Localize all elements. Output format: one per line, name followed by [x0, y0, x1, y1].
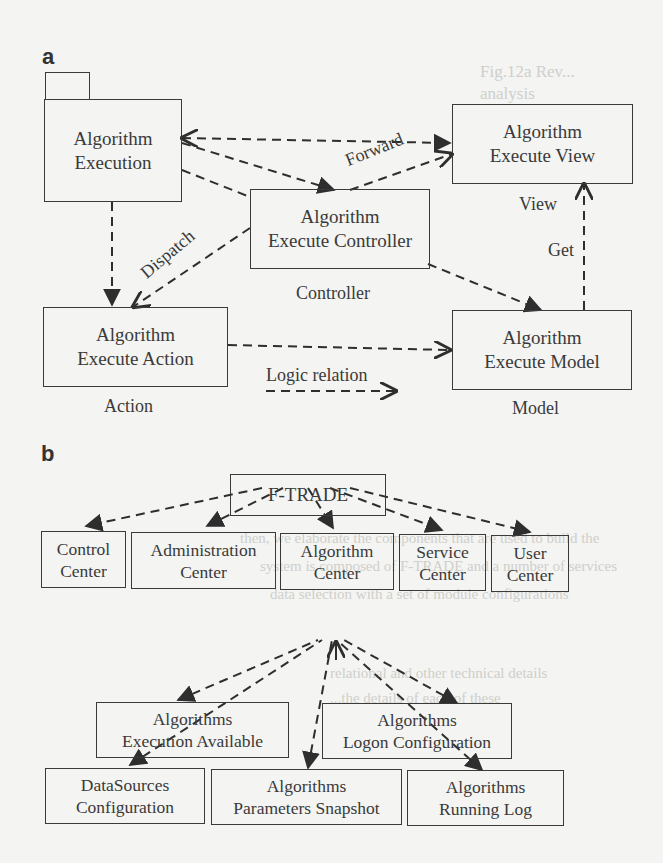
node-algorithm-execute-action: Algorithm Execute Action [43, 307, 228, 387]
node-line1: User [513, 542, 546, 564]
node-line2: Center [507, 564, 554, 586]
edge-label-view: View [519, 194, 557, 215]
edge-alg-execution [178, 640, 318, 700]
edge-label-get: Get [548, 240, 574, 261]
node-line1: Algorithm [73, 127, 152, 151]
node-algorithm-execute-view: Algorithm Execute View [452, 104, 633, 184]
panel-b-label: b [41, 441, 54, 467]
node-line1: Administration [151, 539, 257, 561]
node-datasources-configuration: DataSources Configuration [45, 768, 205, 824]
node-algorithms-execution-available: Algorithms Execution Available [96, 702, 289, 758]
node-line1: Algorithm [502, 326, 581, 350]
edge-execution-controller [182, 143, 334, 190]
node-line1: Algorithm [301, 540, 374, 562]
caption-model: Model [512, 398, 559, 419]
node-f-trade: F-TRADE [230, 474, 386, 516]
node-line1: Algorithms [267, 775, 347, 797]
node-line2: Execute View [490, 144, 596, 168]
node-line2: Execute Model [484, 350, 600, 374]
node-algorithms-logon-configuration: Algorithms Logon Configuration [322, 703, 512, 759]
node-line2: Logon Configuration [343, 731, 491, 753]
node-service-center: Service Center [399, 534, 486, 591]
node-line2: Configuration [76, 796, 174, 818]
node-line2: Execution [74, 151, 151, 175]
node-administration-center: Administration Center [131, 532, 276, 589]
node-line2: Execution Available [122, 730, 263, 752]
node-line2: Running Log [439, 798, 532, 820]
node-user-center: User Center [491, 535, 569, 592]
package-tab [45, 72, 90, 100]
edge-execution-controller-2 [182, 170, 250, 197]
node-algorithm-execute-model: Algorithm Execute Model [452, 310, 632, 390]
node-line2: Center [314, 562, 361, 584]
node-algorithms-parameters-snapshot: Algorithms Parameters Snapshot [211, 769, 402, 825]
node-line2: Execute Action [77, 347, 194, 371]
node-algorithm-execute-controller: Algorithm Execute Controller [250, 189, 430, 269]
node-line2: Parameters Snapshot [233, 797, 379, 819]
edge-alg-logon [344, 640, 457, 703]
caption-action: Action [104, 396, 153, 417]
node-label: F-TRADE [268, 483, 348, 507]
node-algorithm-execution: Algorithm Execution [44, 99, 182, 202]
node-line1: Algorithm [300, 205, 379, 229]
node-line1: Algorithms [446, 776, 526, 798]
edge-controller-model [428, 264, 541, 310]
node-line1: Algorithm [96, 323, 175, 347]
node-line2: Center [180, 561, 227, 583]
node-line1: Control [57, 538, 110, 560]
node-algorithm-center: Algorithm Center [280, 533, 394, 590]
node-line1: Algorithms [153, 708, 233, 730]
node-control-center: Control Center [41, 531, 126, 588]
node-algorithms-running-log: Algorithms Running Log [407, 770, 564, 826]
legend-logic-relation: Logic relation [266, 365, 367, 386]
node-line1: DataSources [81, 774, 169, 796]
caption-controller: Controller [296, 283, 370, 304]
node-line1: Service [416, 541, 468, 563]
edge-action-model [228, 345, 450, 350]
edge-execution-view [182, 138, 450, 143]
panel-a-label: a [42, 44, 54, 70]
node-line2: Center [60, 560, 107, 582]
node-line2: Execute Controller [268, 229, 412, 253]
node-line2: Center [419, 563, 466, 585]
node-line1: Algorithm [503, 120, 582, 144]
node-line1: Algorithms [377, 709, 457, 731]
